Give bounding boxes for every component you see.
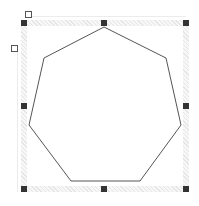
heptagon-shape[interactable] [0, 0, 199, 206]
rotate-handle[interactable] [25, 11, 32, 18]
resize-handle-bottom-middle[interactable] [101, 186, 107, 192]
resize-handle-bottom-left[interactable] [21, 186, 27, 192]
heptagon-outline[interactable] [29, 27, 181, 181]
drawing-canvas[interactable] [0, 0, 199, 206]
resize-handle-middle-left[interactable] [21, 103, 27, 109]
resize-handle-top-middle[interactable] [101, 20, 107, 26]
resize-handle-bottom-right[interactable] [183, 186, 189, 192]
resize-handle-top-right[interactable] [183, 20, 189, 26]
resize-handle-top-left[interactable] [21, 20, 27, 26]
resize-handle-middle-right[interactable] [183, 103, 189, 109]
adjust-handle[interactable] [11, 45, 18, 52]
